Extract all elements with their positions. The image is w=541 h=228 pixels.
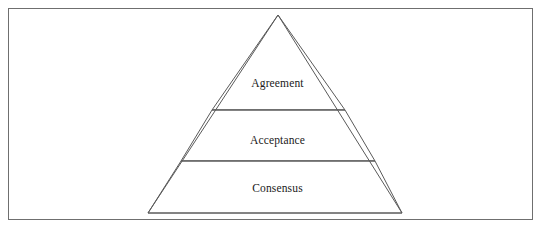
pyramid-tier-label-consensus: Consensus [252, 182, 303, 195]
diagram-canvas: Agreement Acceptance Consensus [0, 0, 541, 228]
pyramid-tier-top-shape[interactable] [212, 15, 345, 110]
pyramid-tier-label-agreement: Agreement [251, 77, 303, 90]
pyramid-tier-label-acceptance: Acceptance [250, 134, 305, 147]
